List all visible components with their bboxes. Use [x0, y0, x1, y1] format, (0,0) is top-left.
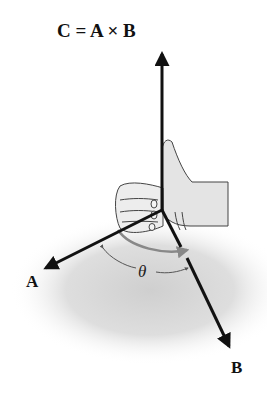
- figure-title: C = A × B: [0, 20, 267, 42]
- right-hand-icon: [115, 140, 228, 232]
- vector-a-label: A: [26, 272, 38, 292]
- vector-b-label: B: [231, 358, 242, 378]
- diagram-canvas: [0, 0, 267, 400]
- right-hand-rule-diagram: C = A × B A B θ: [0, 0, 267, 400]
- angle-theta-label: θ: [138, 262, 146, 282]
